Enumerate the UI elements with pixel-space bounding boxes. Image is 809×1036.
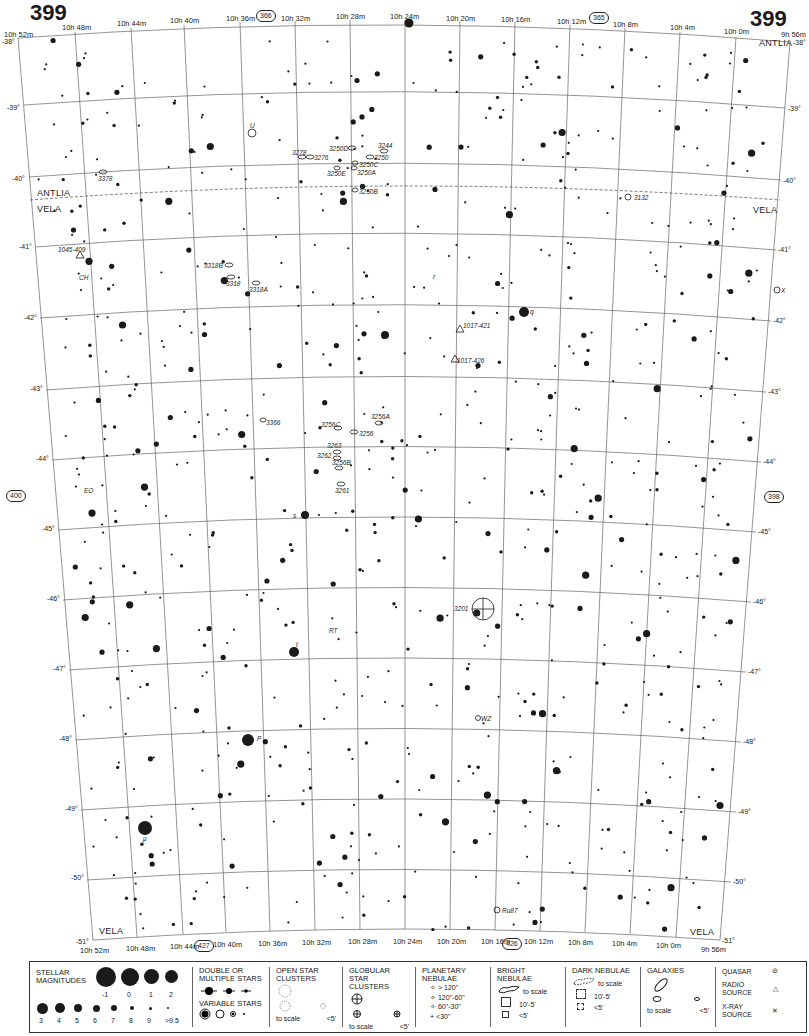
legend-title: PLANETARY NEBULAE [422,967,484,983]
adjacent-chart-366[interactable]: 366 [256,10,276,22]
scale-label: to scale [349,1023,373,1030]
magnitude-label: 7 [111,1017,115,1024]
ra-label-top: 10h 12m [557,17,586,26]
adjacent-chart-365[interactable]: 365 [589,12,609,24]
galaxy-label[interactable]: 3276 [314,154,328,161]
dark-nebula-icon [572,976,596,986]
magnitude-label: 9 [147,1017,151,1024]
dark-nebula-row: <5' [572,1002,634,1013]
open-cluster-label[interactable]: Ru87 [502,907,518,914]
galaxy-label[interactable]: 3250D [329,145,348,152]
adjacent-chart-398[interactable]: 398 [764,491,784,503]
ra-label-bottom: 9h 56m [701,945,726,954]
galaxy-label[interactable]: 3256A [371,413,390,420]
dec-label-left: -40° [12,175,25,182]
galaxy-label[interactable]: 3256C [321,421,340,428]
variable-star-label[interactable]: WZ [481,715,491,722]
ra-label-bottom: 10h 24m [393,937,422,946]
planetary-nebula-label[interactable]: 3132 [634,194,648,201]
galaxy-label[interactable]: 3366 [266,419,280,426]
magnitude-label: >9.5 [165,1017,179,1024]
galaxy-label[interactable]: 3250B [359,188,378,195]
variable-star-icons [199,1008,263,1022]
constellation-vela: VELA [37,204,61,214]
radio-source-label[interactable]: 1017-421 [463,322,490,329]
globular-cluster-label[interactable]: 3201 [454,605,468,612]
star-label[interactable]: μ [143,835,147,842]
magnitude-icon [167,1007,169,1009]
magnitude-label: 0 [127,991,131,998]
dec-label-left: -46° [47,595,60,602]
dec-label-left: -47° [53,665,66,672]
variable-star-label[interactable]: RT [329,627,338,634]
open-cluster-icon [276,983,336,1013]
dec-label-left: -44° [36,455,49,462]
dec-label-right: -44° [763,458,776,465]
star-label[interactable]: r [433,273,435,280]
star-label[interactable]: t [296,641,298,648]
galaxy-label[interactable]: 3244 [378,142,392,149]
ra-label-top: 10h 8m [613,20,638,29]
radio-source-label[interactable]: 1017-426 [457,357,484,364]
legend: STELLAR MAGNITUDES -1 0 1 2 3456789>9.5 … [29,961,807,1033]
galaxy-label[interactable]: 3318 [226,280,240,287]
galaxy-label[interactable]: 3262 [317,452,331,459]
dec-label-left: -43° [30,385,43,392]
dec-label-left: -42° [24,314,37,321]
star-label[interactable]: s [293,512,296,519]
galaxy-label[interactable]: 3318B [204,262,223,269]
magnitude-label: 8 [129,1017,133,1024]
dec-label-right: -51° [722,937,735,944]
galaxy-label[interactable]: 3318A [249,286,268,293]
legend-title: GALAXIES [647,967,709,975]
ra-label-top: 10h 24m [390,12,419,21]
legend-title: VARIABLE STARS [199,1000,263,1008]
size-label: <5' [400,1023,409,1030]
dec-label-right: -45° [758,528,771,535]
galaxy-label[interactable]: 3250E [327,170,346,177]
radio-source-label[interactable]: 1045-409 [58,246,85,253]
magnitude-label: 4 [57,1017,61,1024]
legend-galaxies: GALAXIES to scale<5' [641,967,716,1027]
galaxy-label[interactable]: 3250A [357,169,376,176]
dec-label-right: -48° [743,738,756,745]
variable-star-label[interactable]: CH [79,274,88,281]
star-label[interactable]: P [257,735,261,742]
legend-title: GLOBULAR STAR CLUSTERS [349,967,409,991]
dec-label-left: -48° [59,735,72,742]
magnitude-label: -1 [102,991,108,998]
ra-label-top: 10h 44m [117,19,146,28]
ra-label-top: 10h 36m [226,14,255,23]
ra-label-bottom: 10h 40m [213,940,242,949]
dec-label-left: -39° [7,104,20,111]
variable-star-label[interactable]: EO [84,487,93,494]
constellation-antlia: ANTLIA [37,188,70,198]
adjacent-chart-400[interactable]: 400 [6,490,26,502]
galaxy-label[interactable]: 3250 [374,154,388,161]
magnitude-minus1-icon [96,967,116,987]
variable-star-label[interactable]: U [250,122,255,129]
ra-label-bottom: 10h 20m [437,937,466,946]
ra-label-top: 10h 16m [501,15,530,24]
galaxy-label[interactable]: 3256 [359,430,373,437]
galaxy-label[interactable]: 3278 [292,149,306,156]
star-label[interactable]: q [530,308,534,315]
galaxy-label[interactable]: 3261 [335,487,349,494]
galaxy-label[interactable]: 3250C [359,161,378,168]
ra-label-top: 10h 48m [62,23,91,32]
planetary-size-row: ✧ > 120" [430,983,484,993]
planetary-size-row: + <30" [430,1012,484,1022]
variable-star-label[interactable]: X [781,287,785,294]
quasar-label: QUASAR [722,968,752,975]
galaxy-label[interactable]: 3263 [327,442,341,449]
legend-title: DARK NEBULAE [572,967,634,975]
magnitude-label: 3 [39,1017,43,1024]
size-label: <5' [700,1007,709,1014]
dec-label-right: -40° [783,177,796,184]
galaxy-label[interactable]: 3378 [98,175,112,182]
bright-nebula-row: to scale [497,984,559,997]
dec-grid-lines [18,25,790,940]
magnitude-icon [111,1005,117,1011]
galaxy-label[interactable]: 3256B [332,459,351,466]
dec-label-left: -51° [76,938,89,945]
